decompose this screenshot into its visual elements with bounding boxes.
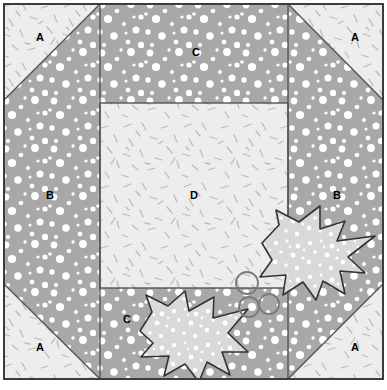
quilt-block-diagram: A A A A B B C C D (0, 0, 387, 390)
piece-label-d-center: D (190, 189, 198, 201)
piece-label-c-top: C (192, 46, 200, 58)
piece-label-b-left: B (46, 189, 54, 201)
piece-label-c-bottom: C (123, 313, 131, 325)
piece-label-b-right: B (333, 189, 341, 201)
diagram-canvas: A A A A B B C C D (0, 0, 387, 390)
piece-label-a-top-left: A (36, 31, 44, 43)
piece-label-a-top-right: A (351, 31, 359, 43)
piece-label-a-bottom-right: A (351, 341, 359, 353)
piece-label-a-bottom-left: A (36, 341, 44, 353)
